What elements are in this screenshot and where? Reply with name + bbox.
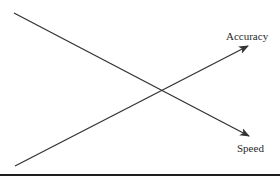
bottom-border-bar — [0, 174, 280, 176]
speed-label: Speed — [237, 142, 264, 154]
speed-line-arrow — [14, 13, 249, 136]
accuracy-line-arrow — [15, 46, 248, 166]
accuracy-label: Accuracy — [226, 30, 269, 42]
speed-accuracy-tradeoff-diagram: Accuracy Speed — [0, 0, 280, 176]
diagram-svg: Accuracy Speed — [0, 0, 280, 176]
